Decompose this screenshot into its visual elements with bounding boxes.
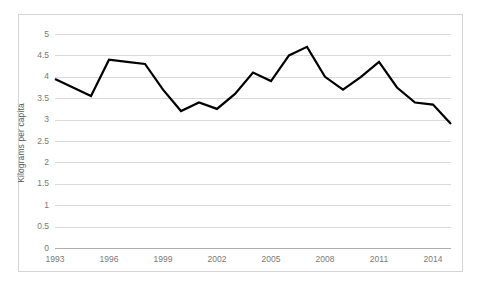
- series-polyline: [55, 47, 451, 124]
- line-chart-plot-area: Kilograms per capita 54.543.532.521.510.…: [19, 15, 464, 273]
- data-series-line: [19, 15, 464, 273]
- chart-frame: Kilograms per capita 54.543.532.521.510.…: [18, 14, 463, 272]
